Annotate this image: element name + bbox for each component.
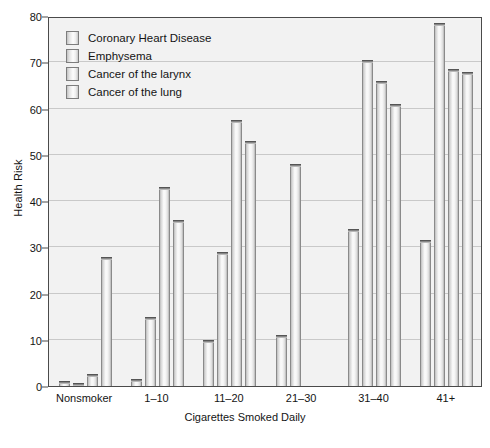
bar bbox=[101, 257, 112, 387]
legend-swatch-icon bbox=[66, 31, 79, 45]
legend-item: Emphysema bbox=[66, 47, 211, 64]
bar bbox=[290, 164, 301, 386]
bar bbox=[376, 81, 387, 386]
x-axis-tick-label: 1–10 bbox=[144, 392, 168, 404]
legend-swatch-icon bbox=[66, 49, 79, 63]
bar bbox=[159, 187, 170, 386]
bar-cap bbox=[376, 81, 387, 84]
bar-cap bbox=[101, 257, 112, 260]
health-risk-bar-chart: Health Risk 01020304050607080 Coronary H… bbox=[0, 0, 490, 448]
bar bbox=[87, 374, 98, 386]
bar-cap bbox=[290, 164, 301, 167]
legend: Coronary Heart DiseaseEmphysemaCancer of… bbox=[66, 29, 211, 101]
bar-cap bbox=[73, 383, 84, 386]
y-axis-tick-label: 20 bbox=[16, 289, 42, 301]
bar bbox=[420, 240, 431, 386]
bar bbox=[145, 317, 156, 386]
bar-cap bbox=[462, 72, 473, 75]
bar-cap bbox=[173, 220, 184, 223]
bar bbox=[59, 381, 70, 386]
bar bbox=[245, 141, 256, 386]
y-axis-tick-label: 50 bbox=[16, 150, 42, 162]
bar-cap bbox=[131, 379, 142, 382]
bar bbox=[448, 69, 459, 386]
y-axis-tick-label: 0 bbox=[16, 381, 42, 393]
bar-cap bbox=[145, 317, 156, 320]
bar-cap bbox=[390, 104, 401, 107]
legend-item: Coronary Heart Disease bbox=[66, 29, 211, 46]
bar bbox=[276, 335, 287, 386]
y-axis-tick-label: 70 bbox=[16, 57, 42, 69]
x-axis-tick-label: 31–40 bbox=[358, 392, 389, 404]
y-axis-tick-label: 80 bbox=[16, 11, 42, 23]
bar bbox=[390, 104, 401, 386]
x-axis-tick-label: 11–20 bbox=[214, 392, 244, 404]
bar bbox=[362, 60, 373, 386]
x-axis-tick-label: 41+ bbox=[436, 392, 455, 404]
bar-cap bbox=[87, 374, 98, 377]
bar bbox=[73, 383, 84, 386]
bar-cap bbox=[159, 187, 170, 190]
bar-cap bbox=[448, 69, 459, 72]
bar-cap bbox=[59, 381, 70, 384]
y-axis-tick-label: 60 bbox=[16, 104, 42, 116]
bar-cap bbox=[231, 120, 242, 123]
bar bbox=[462, 72, 473, 387]
bar-cap bbox=[245, 141, 256, 144]
legend-label: Cancer of the larynx bbox=[88, 68, 191, 80]
y-axis-tick-label: 40 bbox=[16, 196, 42, 208]
x-axis-title: Cigarettes Smoked Daily bbox=[0, 411, 490, 423]
legend-label: Coronary Heart Disease bbox=[88, 32, 211, 44]
legend-item: Cancer of the larynx bbox=[66, 65, 211, 82]
x-axis-tick-label: 21–30 bbox=[286, 392, 317, 404]
bar-cap bbox=[420, 240, 431, 243]
bar-cap bbox=[276, 335, 287, 338]
bar-cap bbox=[348, 229, 359, 232]
bar-cap bbox=[434, 23, 445, 26]
bar-cap bbox=[203, 340, 214, 343]
legend-label: Cancer of the lung bbox=[88, 86, 182, 98]
bar bbox=[217, 252, 228, 386]
bar bbox=[131, 379, 142, 386]
y-axis-tick-label: 30 bbox=[16, 242, 42, 254]
bar bbox=[434, 23, 445, 386]
legend-swatch-icon bbox=[66, 67, 79, 81]
bar bbox=[203, 340, 214, 386]
bar bbox=[173, 220, 184, 387]
legend-item: Cancer of the lung bbox=[66, 83, 211, 100]
x-axis-tick-label: Nonsmoker bbox=[56, 392, 112, 404]
legend-label: Emphysema bbox=[88, 50, 152, 62]
bar-cap bbox=[217, 252, 228, 255]
bar bbox=[348, 229, 359, 386]
bar-cap bbox=[362, 60, 373, 63]
legend-swatch-icon bbox=[66, 85, 79, 99]
bar bbox=[231, 120, 242, 386]
y-axis-tick-label: 10 bbox=[16, 335, 42, 347]
